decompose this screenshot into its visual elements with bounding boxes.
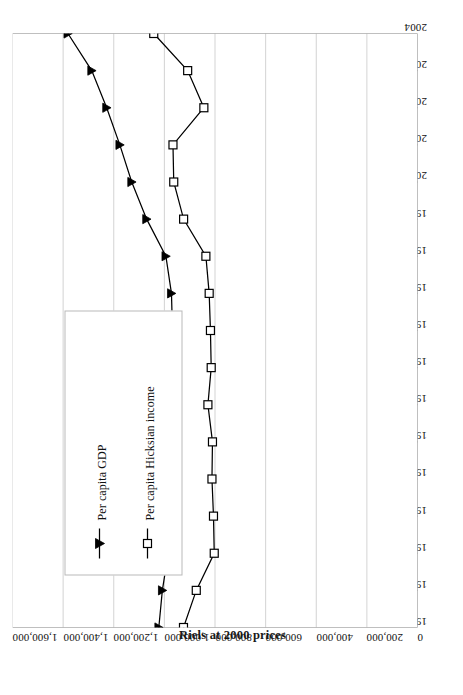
data-point-triangle-marker (115, 140, 123, 149)
data-point-triangle-marker (154, 622, 162, 627)
data-point-square-marker (179, 215, 187, 223)
rotated-figure-wrapper: Riels at 2000 prices 0200,000400,000600,… (0, 0, 463, 695)
data-point-triangle-marker (87, 66, 95, 75)
open-square-icon (140, 526, 158, 560)
data-point-square-marker (207, 363, 215, 371)
data-point-square-marker (199, 103, 207, 111)
chart-figure: Riels at 2000 prices 0200,000400,000600,… (0, 0, 463, 695)
data-point-square-marker (203, 400, 211, 408)
data-point-square-marker (210, 549, 218, 557)
data-point-triangle-marker (127, 177, 135, 186)
legend-item-2[interactable]: Per capita Hicksian income (139, 386, 158, 560)
data-point-square-marker (169, 178, 177, 186)
legend-label: Per capita GDP (94, 444, 108, 520)
data-point-square-marker (183, 66, 191, 74)
year-tick-label: 2004 (404, 21, 444, 33)
chart-screenshot: Riels at 2000 prices 0200,000400,000600,… (0, 0, 463, 695)
legend-label: Per capita Hicksian income (142, 386, 156, 520)
filled-triangle-icon (92, 526, 110, 560)
data-point-square-marker (206, 326, 214, 334)
data-point-triangle-marker (158, 585, 166, 594)
data-point-triangle-marker (161, 251, 169, 260)
data-point-square-marker (179, 623, 187, 627)
data-point-square-marker (149, 33, 157, 37)
chart-legend: Per capita GDPPer capita Hicksian income (64, 310, 182, 575)
data-point-square-marker (205, 289, 213, 297)
data-point-square-marker (168, 140, 176, 148)
data-point-square-marker (208, 437, 216, 445)
data-point-square-marker (201, 252, 209, 260)
data-point-square-marker (207, 475, 215, 483)
data-point-square-marker (192, 586, 200, 594)
data-point-triangle-marker (142, 214, 150, 223)
data-point-square-marker (209, 512, 217, 520)
legend-item-1[interactable]: Per capita GDP (91, 444, 110, 560)
value-tick-label: 1,600,000 (12, 631, 72, 643)
data-point-triangle-marker (102, 103, 110, 112)
